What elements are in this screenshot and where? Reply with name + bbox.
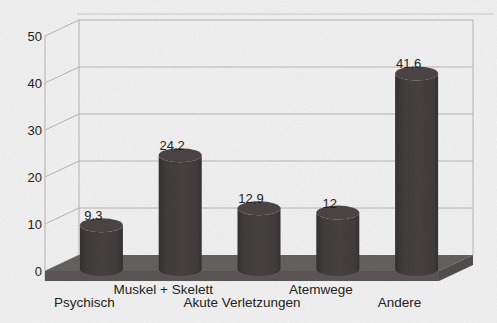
y-tick-label-20: 20 (28, 170, 42, 185)
value-label-atemwege: 12 (323, 196, 337, 211)
value-label-akute-verletzungen: 12,9 (238, 191, 263, 206)
y-tick-label-10: 10 (28, 217, 42, 232)
side-wall-tick-line-30 (45, 114, 79, 130)
bar-chart-3d: 9,3Psychisch24,2Muskel + Skelett12,9Akut… (0, 0, 497, 323)
side-wall-tick-line-10 (45, 208, 79, 224)
category-label-atemwege: Atemwege (289, 282, 353, 297)
category-label-andere: Andere (378, 295, 422, 310)
value-label-psychisch: 9,3 (84, 208, 102, 223)
value-label-muskel-skelett: 24,2 (160, 138, 185, 153)
side-wall-tick-line-40 (45, 67, 79, 83)
category-label-psychisch: Psychisch (54, 295, 115, 310)
value-label-andere: 41,6 (396, 56, 421, 71)
bar-psychisch (80, 225, 123, 276)
y-tick-label-30: 30 (28, 123, 42, 138)
y-tick-label-40: 40 (28, 76, 42, 91)
y-tick-label-50: 50 (28, 29, 42, 44)
bar-atemwege (316, 213, 359, 276)
side-wall-tick-line-20 (45, 161, 79, 177)
y-tick-label-0: 0 (35, 264, 42, 279)
bar-muskel-skelett (159, 155, 202, 276)
side-wall-tick-line-50 (45, 20, 79, 36)
chart-figure: 9,3Psychisch24,2Muskel + Skelett12,9Akut… (0, 0, 497, 323)
bar-akute-verletzungen (238, 208, 281, 276)
category-label-akute-verletzungen: Akute Verletzungen (183, 295, 300, 310)
bar-andere (395, 73, 438, 276)
